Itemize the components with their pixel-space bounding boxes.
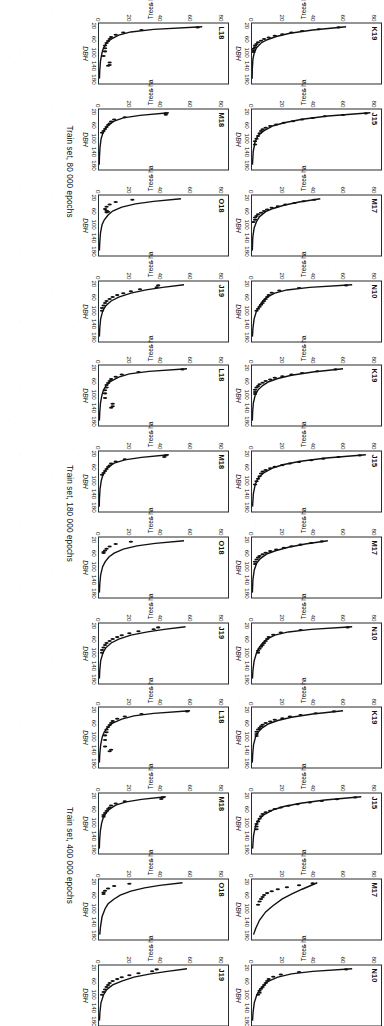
plot-area-wrapper: N102060100140180DBH [232,622,382,684]
data-point [115,636,119,638]
data-point [110,638,114,640]
x-tick-label: 180 [243,674,251,684]
plot-area-wrapper: J152060100140180DBH [232,450,382,512]
x-axis-label: DBH [79,706,89,768]
data-point [291,120,295,122]
y-tick-label: 80 [218,442,224,449]
x-axis-ticks: 2060100140180 [242,108,251,170]
x-tick-label: 140 [243,744,251,754]
y-tick-label: 60 [187,186,193,193]
fitted-curve [252,198,320,250]
fitted-curve [253,796,362,848]
plot-panel: Trees ha-1020406080M172060100140180DBH [232,172,382,256]
y-tick-label: 80 [371,784,377,791]
x-tick-label: 60 [243,891,251,898]
x-axis-ticks: 2060100140180 [242,280,251,342]
x-tick-label: 100 [243,475,251,485]
data-point [268,550,272,552]
data-point [113,802,117,804]
x-axis-label: DBH [79,878,89,940]
data-point [120,634,124,636]
fitted-curve [252,540,328,592]
data-point [279,631,283,633]
y-axis-label: Trees ha-1 [232,86,382,97]
y-axis-ticks: 020406080 [79,525,229,536]
x-axis-ticks: 2060100140180 [242,364,251,426]
x-tick-label: 20 [243,964,251,971]
data-point [289,545,293,547]
x-tick-label: 100 [243,731,251,741]
data-point [256,903,260,905]
axes-box: M17 [251,536,382,598]
x-tick-label: 140 [243,232,251,242]
data-point [270,890,274,892]
y-tick-label: 40 [157,870,163,877]
plot-panel: Trees ha-1020406080J192060100140180DBH [79,258,229,342]
y-tick-label: 40 [310,956,316,963]
x-axis-label: DBH [79,280,89,342]
data-point [364,112,368,114]
panel-plot [99,195,228,255]
data-point [103,988,107,990]
group-caption: Train set, 180 000 epochs [65,342,74,684]
x-axis-label: DBH [232,792,242,854]
data-point [280,375,284,377]
y-tick-label: 60 [340,528,346,535]
y-axis-ticks: 020406080 [232,97,382,108]
epoch-group: Trees ha-1020406080K192060100140180DBHTr… [0,0,382,342]
y-axis-label: Trees ha-1 [232,684,382,695]
x-axis-ticks: 2060100140180 [89,706,98,768]
y-axis-ticks: 020406080 [79,781,229,792]
axes-box: K19 [251,22,382,84]
x-tick-label: 20 [90,964,98,971]
axes-box: J19 [98,280,229,342]
y-tick-label: 80 [218,186,224,193]
y-tick-label: 80 [218,100,224,107]
data-point [123,800,127,802]
y-tick-label: 80 [218,870,224,877]
x-axis-label: DBH [232,450,242,512]
y-axis-ticks: 020406080 [79,353,229,364]
data-point [109,462,113,464]
x-axis-ticks: 2060100140180 [89,792,98,854]
data-point [265,892,269,894]
x-tick-label: 60 [243,549,251,556]
x-tick-label: 140 [243,402,251,412]
y-tick-label: 80 [371,528,377,535]
data-point [333,368,337,370]
y-tick-label: 20 [126,442,132,449]
plot-area-wrapper: L182060100140180DBH [79,364,229,426]
data-point [195,26,199,28]
x-tick-label: 140 [90,916,98,926]
x-axis-label: DBH [79,622,89,684]
fitted-curve [99,198,181,250]
x-tick-label: 20 [243,878,251,885]
data-point [129,540,133,542]
axes-box: N10 [251,622,382,684]
x-tick-label: 180 [90,930,98,940]
data-point [263,380,267,382]
data-point [311,882,315,884]
y-tick-label: 60 [340,442,346,449]
data-point [298,713,302,715]
x-axis-label: DBH [79,450,89,512]
y-axis-label: Trees ha-1 [232,856,382,867]
plot-panel: Trees ha-1020406080M182060100140180DBH [79,770,229,854]
data-point [252,221,256,223]
data-point [136,370,140,372]
fitted-curve [99,626,185,678]
plot-area-wrapper: M172060100140180DBH [232,536,382,598]
x-tick-label: 20 [243,22,251,29]
y-tick-label: 0 [248,190,254,193]
data-point [110,405,114,407]
data-point [263,722,267,724]
y-tick-label: 20 [279,784,285,791]
y-tick-label: 20 [279,442,285,449]
axes-box: M18 [98,792,229,854]
panel-plot [99,365,228,425]
y-tick-label: 60 [187,956,193,963]
y-tick-label: 80 [218,528,224,535]
y-tick-label: 40 [310,870,316,877]
y-tick-label: 60 [187,870,193,877]
x-tick-label: 180 [90,844,98,854]
